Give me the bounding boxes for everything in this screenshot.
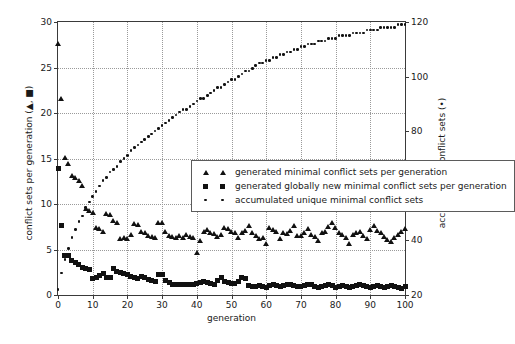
data-point-dot xyxy=(109,171,112,174)
data-point-square xyxy=(149,278,154,283)
y-tick-label-left: 10 xyxy=(41,200,52,209)
data-point-square xyxy=(177,282,182,287)
data-point-square xyxy=(125,272,130,277)
data-point-square xyxy=(302,283,307,288)
data-point-dot xyxy=(64,258,67,261)
data-point-triangle xyxy=(232,230,238,235)
gridline-horizontal xyxy=(58,68,405,69)
legend-item-triangle: generated minimal conflict sets per gene… xyxy=(197,165,507,179)
data-point-square xyxy=(66,253,71,258)
data-point-square xyxy=(357,282,362,287)
data-point-triangle xyxy=(159,220,165,225)
data-point-dot xyxy=(372,29,375,32)
data-point-dot xyxy=(352,32,355,35)
data-point-triangle xyxy=(225,226,231,231)
data-point-triangle xyxy=(107,212,113,217)
y-tick-left xyxy=(54,68,58,69)
data-point-triangle xyxy=(155,220,161,225)
data-point-square xyxy=(128,274,133,279)
data-point-square xyxy=(257,283,262,288)
data-point-square xyxy=(132,275,137,280)
data-point-triangle xyxy=(62,155,68,160)
plot-area: 0510152025302040608010012001020304050607… xyxy=(57,21,406,296)
data-point-triangle xyxy=(315,238,321,243)
data-point-triangle xyxy=(211,231,217,236)
data-point-square xyxy=(108,275,113,280)
data-point-dot xyxy=(317,40,320,43)
data-point-dot xyxy=(272,56,275,59)
data-point-square xyxy=(229,281,234,286)
data-point-square xyxy=(146,277,151,282)
data-point-triangle xyxy=(204,227,210,232)
legend-label-minimal-conflict-sets: generated minimal conflict sets per gene… xyxy=(235,167,447,177)
data-point-dot xyxy=(78,220,81,223)
data-point-square xyxy=(184,282,189,287)
data-point-triangle xyxy=(360,233,366,238)
data-point-square xyxy=(278,284,283,289)
data-point-triangle xyxy=(384,237,390,242)
x-tick-label: 100 xyxy=(396,301,413,310)
data-point-square xyxy=(344,284,349,289)
data-point-square xyxy=(239,275,244,280)
data-point-square xyxy=(347,285,352,290)
data-point-square xyxy=(288,282,293,287)
data-point-square xyxy=(260,284,265,289)
data-point-dot xyxy=(189,105,192,108)
data-point-dot xyxy=(133,146,136,149)
data-point-square xyxy=(69,258,74,263)
data-point-dot xyxy=(230,78,233,81)
data-point-square xyxy=(250,284,255,289)
data-point-triangle xyxy=(398,229,404,234)
data-point-square xyxy=(118,270,123,275)
data-point-square xyxy=(215,278,220,283)
data-point-dot xyxy=(369,29,372,32)
data-point-dot xyxy=(386,26,389,29)
gridline-vertical xyxy=(197,22,198,295)
x-tick-label: 40 xyxy=(191,301,202,310)
data-point-square xyxy=(253,284,258,289)
data-point-square xyxy=(382,285,387,290)
y-tick-label-left: 30 xyxy=(41,18,52,27)
legend[interactable]: generated minimal conflict sets per gene… xyxy=(191,160,515,212)
data-point-square xyxy=(191,282,196,287)
data-point-triangle xyxy=(260,235,266,240)
data-point-square xyxy=(114,269,119,274)
data-point-square xyxy=(319,284,324,289)
data-point-triangle xyxy=(256,236,262,241)
data-point-square xyxy=(167,280,172,285)
data-point-dot xyxy=(237,75,240,78)
data-point-square xyxy=(291,283,296,288)
data-point-square xyxy=(59,223,64,228)
data-point-square xyxy=(246,283,251,288)
data-point-triangle xyxy=(242,228,248,233)
data-point-dot xyxy=(241,73,244,76)
data-point-square xyxy=(111,266,116,271)
data-point-dot xyxy=(404,23,407,26)
x-tick xyxy=(301,295,302,299)
y-tick-label-right: 40 xyxy=(411,236,422,245)
data-point-square xyxy=(232,281,237,286)
data-point-dot xyxy=(81,215,84,218)
x-tick-label: 20 xyxy=(122,301,133,310)
data-point-dot xyxy=(345,34,348,37)
data-point-dot xyxy=(147,135,150,138)
gridline-vertical xyxy=(232,22,233,295)
data-point-square xyxy=(274,283,279,288)
data-point-dot xyxy=(130,149,133,152)
data-point-triangle xyxy=(273,229,279,234)
gridline-vertical xyxy=(162,22,163,295)
data-point-square xyxy=(375,283,380,288)
data-point-triangle xyxy=(162,229,168,234)
legend-item-dot: accumulated unique minimal conflict sets xyxy=(197,193,507,207)
x-tick-label: 60 xyxy=(260,301,271,310)
data-point-triangle xyxy=(183,232,189,237)
data-point-square xyxy=(198,280,203,285)
data-point-dot xyxy=(192,103,195,106)
data-point-dot xyxy=(60,272,63,275)
data-point-square xyxy=(205,280,210,285)
data-point-square xyxy=(305,282,310,287)
square-icon xyxy=(220,184,225,189)
y-tick-label-left: 0 xyxy=(46,291,52,300)
data-point-triangle xyxy=(308,232,314,237)
data-point-triangle xyxy=(246,223,252,228)
